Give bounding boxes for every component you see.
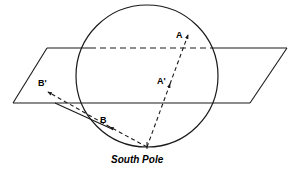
ray-aprime-to-a [170,35,188,84]
ray-southpole-to-aprime [147,84,170,147]
point-label-a-prime: A' [157,77,166,86]
projection-ray-B [48,92,147,147]
point-label-b: B [100,116,107,125]
plane-parallelogram [13,48,287,103]
point-label-a: A [176,31,183,40]
south-pole-caption: South Pole [111,155,163,165]
point-label-b-prime: B' [38,79,47,88]
plane-right-edge [250,48,287,103]
stereographic-projection-figure: A A' B B' South Pole [0,0,292,173]
projection-ray-A [147,35,188,147]
plane-left-edge [13,48,47,103]
sphere-outline [76,5,218,147]
